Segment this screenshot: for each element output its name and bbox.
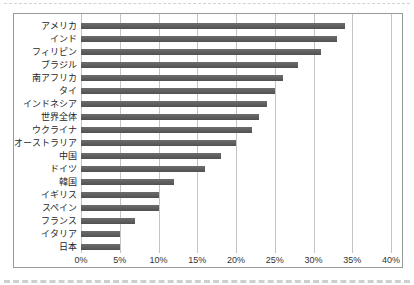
category-label: 南アフリカ: [14, 72, 81, 85]
x-axis-ticks: 0%5%10%15%20%25%30%35%40%: [14, 255, 402, 267]
category-label: スペイン: [14, 202, 81, 215]
category-label: オーストラリア: [14, 137, 81, 150]
bar-row: スペイン: [14, 202, 402, 215]
bar: [81, 218, 135, 224]
page: アメリカインドフィリピンブラジル南アフリカタイインドネシア世界全体ウクライナオー…: [0, 0, 414, 285]
category-label: 韓国: [14, 176, 81, 189]
bar: [81, 192, 159, 198]
bar-row: ウクライナ: [14, 124, 402, 137]
bar-row: インド: [14, 33, 402, 46]
bar: [81, 166, 205, 172]
bar: [81, 75, 283, 81]
bar-row: イタリア: [14, 228, 402, 241]
x-tick-label: 40%: [376, 255, 406, 265]
category-label: インド: [14, 33, 81, 46]
category-label: 中国: [14, 150, 81, 163]
top-divider: [4, 3, 410, 4]
category-label: 日本: [14, 241, 81, 254]
bar-row: 中国: [14, 150, 402, 163]
x-tick-label: 30%: [299, 255, 329, 265]
x-tick-label: 5%: [105, 255, 135, 265]
bar: [81, 205, 159, 211]
x-tick-label: 35%: [337, 255, 367, 265]
bar-row: ブラジル: [14, 59, 402, 72]
bar: [81, 36, 337, 42]
category-label: フランス: [14, 215, 81, 228]
category-label: フィリピン: [14, 46, 81, 59]
bar-row: インドネシア: [14, 98, 402, 111]
bar: [81, 101, 267, 107]
bar: [81, 62, 298, 68]
category-label: タイ: [14, 85, 81, 98]
bar-row: オーストラリア: [14, 137, 402, 150]
category-label: イギリス: [14, 189, 81, 202]
x-tick-label: 0%: [66, 255, 96, 265]
category-label: ブラジル: [14, 59, 81, 72]
bar-row: イギリス: [14, 189, 402, 202]
bar-row: 日本: [14, 241, 402, 254]
x-tick-label: 10%: [144, 255, 174, 265]
bar-row: タイ: [14, 85, 402, 98]
x-tick-label: 15%: [182, 255, 212, 265]
bar-row: 韓国: [14, 176, 402, 189]
bar-row: フランス: [14, 215, 402, 228]
bar: [81, 231, 120, 237]
bar-chart: アメリカインドフィリピンブラジル南アフリカタイインドネシア世界全体ウクライナオー…: [13, 13, 403, 268]
bar: [81, 88, 275, 94]
bar: [81, 179, 174, 185]
bar-row: ドイツ: [14, 163, 402, 176]
category-label: イタリア: [14, 228, 81, 241]
x-tick-label: 25%: [260, 255, 290, 265]
bar: [81, 140, 236, 146]
bar-rows: アメリカインドフィリピンブラジル南アフリカタイインドネシア世界全体ウクライナオー…: [14, 14, 402, 267]
category-label: ドイツ: [14, 163, 81, 176]
bar: [81, 23, 345, 29]
category-label: 世界全体: [14, 111, 81, 124]
bar-row: アメリカ: [14, 20, 402, 33]
bar-row: 南アフリカ: [14, 72, 402, 85]
category-label: ウクライナ: [14, 124, 81, 137]
x-tick-label: 20%: [221, 255, 251, 265]
bottom-divider: [4, 280, 410, 283]
bar-row: フィリピン: [14, 46, 402, 59]
category-label: インドネシア: [14, 98, 81, 111]
bar: [81, 114, 259, 120]
bar: [81, 49, 321, 55]
bar: [81, 153, 221, 159]
bar-row: 世界全体: [14, 111, 402, 124]
bar: [81, 244, 120, 250]
category-label: アメリカ: [14, 20, 81, 33]
bar: [81, 127, 252, 133]
